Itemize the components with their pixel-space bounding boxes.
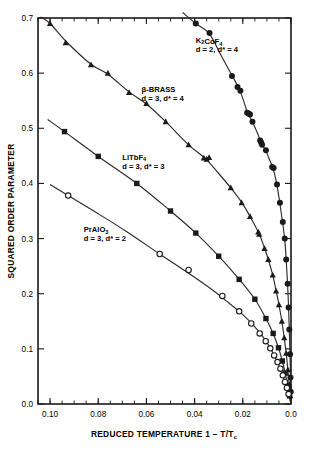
- curve-PrAlO3: [50, 185, 291, 404]
- curve-K2CoF4: [183, 12, 291, 404]
- x-tick-label: 0.06: [138, 410, 154, 419]
- data-point-K2CoF4: [271, 165, 277, 171]
- plot-frame: [38, 18, 291, 404]
- data-point-K2CoF4: [282, 236, 288, 242]
- y-tick-label: 0.3: [22, 235, 34, 244]
- series-label-beta-BRASS: β-BRASS: [142, 85, 176, 94]
- data-point-K2CoF4: [249, 119, 255, 125]
- data-point-beta-BRASS: [276, 301, 282, 307]
- data-point-PrAlO3: [220, 293, 225, 298]
- y-tick-label: 0.0: [22, 400, 34, 409]
- curve-beta-BRASS: [40, 17, 291, 404]
- data-point-PrAlO3: [186, 267, 191, 272]
- x-tick-label: 0.10: [42, 410, 58, 419]
- data-point-K2CoF4: [285, 281, 291, 287]
- data-point-PrAlO3: [282, 379, 287, 384]
- data-point-LiTbF4: [270, 331, 275, 336]
- data-point-PrAlO3: [249, 321, 254, 326]
- data-point-PrAlO3: [278, 366, 283, 371]
- y-tick-label: 0.7: [22, 14, 34, 23]
- x-tick-label: 0.02: [235, 410, 251, 419]
- data-point-K2CoF4: [259, 142, 265, 148]
- data-point-beta-BRASS: [265, 256, 271, 262]
- data-point-beta-BRASS: [239, 199, 245, 205]
- data-point-LiTbF4: [276, 345, 281, 350]
- x-tick-label: 0.04: [187, 410, 203, 419]
- series-sublabel-LiTbF4: d = 3, d* = 3: [122, 162, 164, 171]
- curve-LiTbF4: [48, 119, 291, 404]
- data-point-K2CoF4: [277, 200, 283, 206]
- y-tick-label: 0.5: [22, 124, 34, 133]
- series-sublabel-beta-BRASS: d = 3, d* = 4: [142, 94, 185, 103]
- y-axis-tick-labels: 0.00.10.20.30.40.50.60.7: [22, 14, 34, 409]
- data-point-beta-BRASS: [270, 272, 276, 278]
- y-tick-label: 0.1: [22, 345, 34, 354]
- series-data-markers: [47, 20, 294, 398]
- data-point-K2CoF4: [286, 305, 292, 311]
- data-point-LiTbF4: [216, 254, 221, 259]
- data-point-K2CoF4: [237, 88, 243, 94]
- x-axis-minor-ticks: [38, 18, 291, 404]
- series-sublabel-PrAlO3: d = 3, d* = 2: [84, 234, 126, 243]
- data-point-PrAlO3: [257, 331, 262, 336]
- data-point-K2CoF4: [286, 327, 292, 333]
- series-label-PrAlO3: PrAlO3: [84, 225, 109, 235]
- data-point-K2CoF4: [274, 182, 280, 188]
- series-sublabel-K2CoF4: d = 2, d* = 4: [196, 45, 239, 54]
- y-axis-title: SQUARED ORDER PARAMETER: [6, 144, 16, 279]
- y-tick-label: 0.2: [22, 290, 34, 299]
- data-point-LiTbF4: [62, 129, 67, 134]
- data-point-LiTbF4: [134, 181, 139, 186]
- figure-container: 0.100.080.060.040.020.0 0.00.10.20.30.40…: [0, 0, 311, 455]
- data-point-PrAlO3: [236, 309, 241, 314]
- data-point-PrAlO3: [157, 251, 162, 256]
- data-point-PrAlO3: [271, 353, 276, 358]
- data-point-LiTbF4: [193, 230, 198, 235]
- data-point-beta-BRASS: [273, 288, 279, 294]
- data-point-beta-BRASS: [279, 318, 285, 324]
- data-point-beta-BRASS: [281, 335, 287, 341]
- data-point-K2CoF4: [207, 30, 213, 36]
- data-point-PrAlO3: [275, 359, 280, 364]
- data-point-PrAlO3: [284, 385, 289, 390]
- y-tick-label: 0.6: [22, 69, 34, 78]
- data-point-K2CoF4: [288, 375, 294, 381]
- data-point-K2CoF4: [280, 219, 286, 225]
- data-point-PrAlO3: [65, 193, 70, 198]
- data-point-LiTbF4: [236, 277, 241, 282]
- x-axis-title: REDUCED TEMPERATURE 1 − T/Tc: [91, 429, 237, 440]
- axis-major-ticks: [38, 18, 291, 404]
- data-point-K2CoF4: [247, 112, 253, 118]
- data-point-K2CoF4: [283, 257, 289, 263]
- data-point-PrAlO3: [263, 338, 268, 343]
- x-tick-label: 0.0: [285, 410, 297, 419]
- data-point-LiTbF4: [96, 154, 101, 159]
- data-point-LiTbF4: [263, 316, 268, 321]
- data-point-PrAlO3: [268, 346, 273, 351]
- data-point-K2CoF4: [263, 147, 269, 153]
- x-tick-label: 0.08: [90, 410, 106, 419]
- x-axis-tick-labels: 0.100.080.060.040.020.0: [42, 410, 297, 419]
- series-annotations: K2CoF4d = 2, d* = 4β-BRASSd = 3, d* = 4L…: [84, 36, 239, 244]
- data-point-LiTbF4: [168, 208, 173, 213]
- series-fit-curves: [40, 12, 291, 404]
- data-point-LiTbF4: [252, 297, 257, 302]
- series-label-LiTbF4: LiTbF4: [122, 153, 147, 163]
- order-parameter-scatter-chart: 0.100.080.060.040.020.0 0.00.10.20.30.40…: [0, 0, 311, 455]
- data-point-K2CoF4: [193, 21, 199, 27]
- data-point-K2CoF4: [229, 73, 235, 79]
- data-point-beta-BRASS: [261, 245, 267, 251]
- data-point-PrAlO3: [280, 373, 285, 378]
- data-point-PrAlO3: [286, 391, 291, 396]
- y-tick-label: 0.4: [22, 179, 34, 188]
- data-point-beta-BRASS: [247, 213, 253, 219]
